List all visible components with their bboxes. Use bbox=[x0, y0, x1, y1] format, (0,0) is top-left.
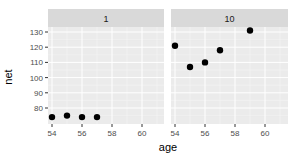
x-axis-title-text: age bbox=[159, 141, 177, 153]
x-tick-label: 58 bbox=[108, 129, 117, 138]
faceted-scatter-chart: 15456586010545658608090100110120130agene… bbox=[0, 0, 294, 162]
y-tick-label: 90 bbox=[34, 89, 43, 98]
x-tick-label: 54 bbox=[171, 129, 180, 138]
x-tick-label: 56 bbox=[78, 129, 87, 138]
data-point bbox=[49, 114, 55, 120]
facet-label: 10 bbox=[224, 14, 234, 24]
x-tick-label: 58 bbox=[231, 129, 240, 138]
data-point bbox=[172, 42, 178, 48]
y-tick-label: 110 bbox=[30, 58, 43, 67]
y-tick-label: 100 bbox=[30, 74, 44, 83]
data-point bbox=[217, 47, 223, 53]
x-tick-label: 60 bbox=[138, 129, 147, 138]
panel-background bbox=[48, 27, 164, 124]
data-point bbox=[94, 114, 100, 120]
plot-area: 15456586010545658608090100110120130agene… bbox=[0, 0, 294, 162]
y-tick-label: 130 bbox=[30, 28, 44, 37]
data-point bbox=[64, 112, 70, 118]
data-point bbox=[187, 64, 193, 70]
x-tick-label: 60 bbox=[261, 129, 270, 138]
x-tick-label: 54 bbox=[48, 129, 57, 138]
data-point bbox=[202, 59, 208, 65]
panel-background bbox=[171, 27, 288, 124]
data-point bbox=[247, 27, 253, 33]
y-axis-title-text: net bbox=[2, 69, 14, 84]
data-point bbox=[79, 114, 85, 120]
y-tick-label: 80 bbox=[34, 104, 43, 113]
y-tick-label: 120 bbox=[30, 43, 44, 52]
x-tick-label: 56 bbox=[201, 129, 210, 138]
facet-label: 1 bbox=[103, 14, 108, 24]
